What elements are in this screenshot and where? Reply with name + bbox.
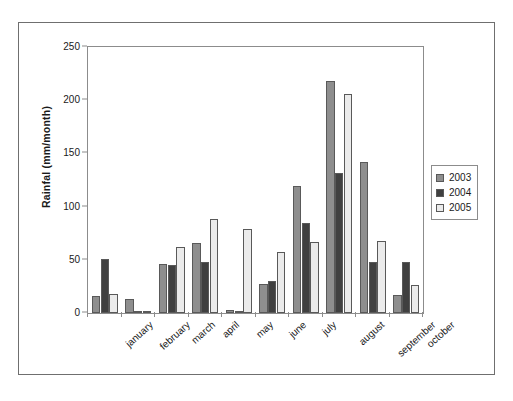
bar-group (256, 47, 290, 313)
y-tick-label: 50 (69, 253, 80, 264)
bar-january-2004 (101, 259, 109, 313)
bar-march-2003 (159, 264, 167, 313)
y-tick-label: 250 (63, 41, 80, 52)
bar-september-2005 (377, 241, 385, 313)
x-axis-labels: januaryfebruarymarchaprilmayjunejulyaugu… (87, 315, 424, 375)
plot-area (87, 46, 424, 314)
bar-group (390, 47, 424, 313)
bar-september-2004 (369, 262, 377, 313)
x-tick-label-march: march (189, 319, 217, 346)
chart-legend: 200320042005 (431, 165, 478, 220)
bar-july-2003 (293, 186, 301, 313)
bar-group (155, 47, 189, 313)
bar-august-2003 (326, 81, 334, 313)
legend-item-2004: 2004 (436, 185, 471, 200)
bar-february-2003 (125, 299, 133, 313)
bar-may-2005 (243, 229, 251, 313)
bar-group (122, 47, 156, 313)
legend-item-2003: 2003 (436, 170, 471, 185)
bar-september-2003 (360, 162, 368, 313)
bar-group (323, 47, 357, 313)
y-axis-ticks: 050100150200250 (19, 46, 87, 312)
y-tick-label: 150 (63, 147, 80, 158)
x-tick-label-may: may (254, 319, 275, 340)
legend-item-2005: 2005 (436, 200, 471, 215)
bar-group (88, 47, 122, 313)
bar-group (222, 47, 256, 313)
x-tick-label-april: april (220, 319, 241, 340)
legend-label-2004: 2004 (449, 188, 471, 198)
bar-august-2004 (335, 173, 343, 313)
legend-label-2005: 2005 (449, 203, 471, 213)
bars-layer (88, 47, 423, 313)
bar-april-2003 (192, 243, 200, 313)
y-tick-label: 200 (63, 94, 80, 105)
bar-july-2005 (310, 242, 318, 313)
rainfall-bar-chart: Rainfal (mm/month) 050100150200250 janua… (19, 23, 494, 374)
bar-june-2003 (259, 284, 267, 313)
bar-group (189, 47, 223, 313)
y-tick-label: 0 (74, 307, 80, 318)
x-tick-label-january: january (123, 319, 155, 349)
bar-october-2005 (411, 285, 419, 313)
bar-october-2003 (393, 295, 401, 313)
bar-october-2004 (402, 262, 410, 313)
y-tick-label: 100 (63, 200, 80, 211)
bar-august-2005 (344, 94, 352, 313)
bar-march-2004 (168, 265, 176, 313)
bar-april-2004 (201, 262, 209, 313)
bar-april-2005 (210, 219, 218, 313)
legend-swatch-2003 (436, 174, 444, 182)
x-tick-label-june: june (287, 319, 308, 340)
bar-group (289, 47, 323, 313)
legend-label-2003: 2003 (449, 173, 471, 183)
bar-january-2003 (92, 296, 100, 313)
x-tick-label-july: july (320, 319, 339, 337)
x-tick-label-february: february (158, 319, 193, 352)
bar-july-2004 (302, 223, 310, 313)
bar-march-2005 (176, 247, 184, 313)
legend-swatch-2005 (436, 204, 444, 212)
x-tick-label-august: august (357, 319, 387, 347)
bar-group (356, 47, 390, 313)
figure-frame: Rainfal (mm/month) 050100150200250 janua… (18, 22, 495, 375)
bar-june-2004 (268, 281, 276, 313)
bar-june-2005 (277, 252, 285, 313)
bar-january-2005 (109, 294, 117, 313)
legend-swatch-2004 (436, 189, 444, 197)
